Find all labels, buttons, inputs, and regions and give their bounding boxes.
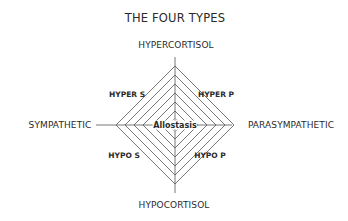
axis-label-left: SYMPATHETIC [29, 120, 92, 130]
axis-label-bottom: HYPOCORTISOL [139, 200, 210, 210]
quadrant-label-hypo-p: HYPO P [194, 151, 226, 160]
quadrant-label-hyper-p: HYPER P [198, 90, 234, 99]
axis-label-right: PARASYMPATHETIC [248, 120, 334, 130]
nested-diamond-graphic [0, 0, 348, 221]
axis-label-top: HYPERCORTISOL [138, 40, 213, 50]
quadrant-label-hyper-s: HYPER S [109, 90, 145, 99]
quadrant-label-hypo-s: HYPO S [108, 151, 140, 160]
diagram-title: THE FOUR TYPES [125, 11, 226, 25]
center-label: Allostasis [152, 121, 197, 130]
